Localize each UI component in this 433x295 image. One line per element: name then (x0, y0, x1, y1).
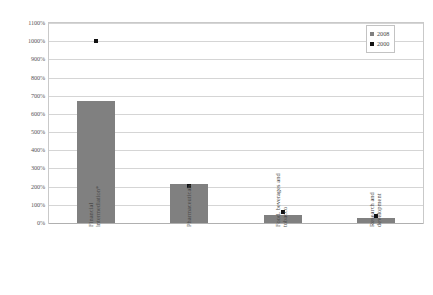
x-axis-label-slot: Financialintermediation* (48, 227, 142, 293)
x-axis-label-line: intermediation* (95, 186, 102, 227)
x-axis-label-line: Research and (368, 192, 375, 227)
y-axis-tick-label: 300% (31, 165, 45, 171)
x-axis-label-slot: Pharmaceuticals (142, 227, 236, 293)
x-axis-label-slot: Research anddevelopment (329, 227, 423, 293)
y-axis-tick-label: 400% (31, 147, 45, 153)
y-axis-tick-label: 600% (31, 111, 45, 117)
x-axis-label: Pharmaceuticals (185, 184, 192, 227)
legend-item: 2008 (370, 29, 389, 39)
x-axis-label: Research anddevelopment (368, 192, 383, 227)
x-axis-label-slot: Food, beverages andtobacco (235, 227, 329, 293)
y-axis-tick-label: 0% (37, 220, 45, 226)
x-axis-label-line: Pharmaceuticals (185, 184, 192, 227)
y-axis-tick-label: 800% (31, 74, 45, 80)
legend-swatch (370, 32, 374, 36)
x-axis-label: Food, beverages andtobacco (274, 173, 289, 227)
legend-label: 2000 (377, 41, 389, 47)
x-axis-label-line: tobacco (282, 173, 289, 227)
y-axis-tick-label: 100% (31, 202, 45, 208)
y-axis-title-label: Outward sectoral R&D intensity (6, 0, 18, 34)
y-axis-tick-label: 500% (31, 129, 45, 135)
y-axis-title: Outward sectoral R&D intensity (6, 0, 18, 34)
series-group (49, 23, 423, 223)
x-axis-label: Financialintermediation* (87, 186, 102, 227)
gridline (49, 223, 423, 224)
chart-legend: 20082000 (366, 25, 395, 53)
legend-item: 2000 (370, 39, 389, 49)
chart-container: Outward sectoral R&D intensity 0%100%200… (0, 0, 433, 295)
y-axis-tick-label: 1100% (28, 20, 45, 26)
legend-label: 2008 (377, 31, 389, 37)
y-axis-tick-label: 900% (31, 56, 45, 62)
x-axis-label-line: development (375, 192, 382, 227)
y-axis-tick-label: 1000% (28, 38, 45, 44)
data-point-marker (94, 39, 98, 43)
legend-swatch (370, 42, 374, 46)
y-axis-tick-label: 700% (31, 93, 45, 99)
y-axis-tick-label: 200% (31, 184, 45, 190)
